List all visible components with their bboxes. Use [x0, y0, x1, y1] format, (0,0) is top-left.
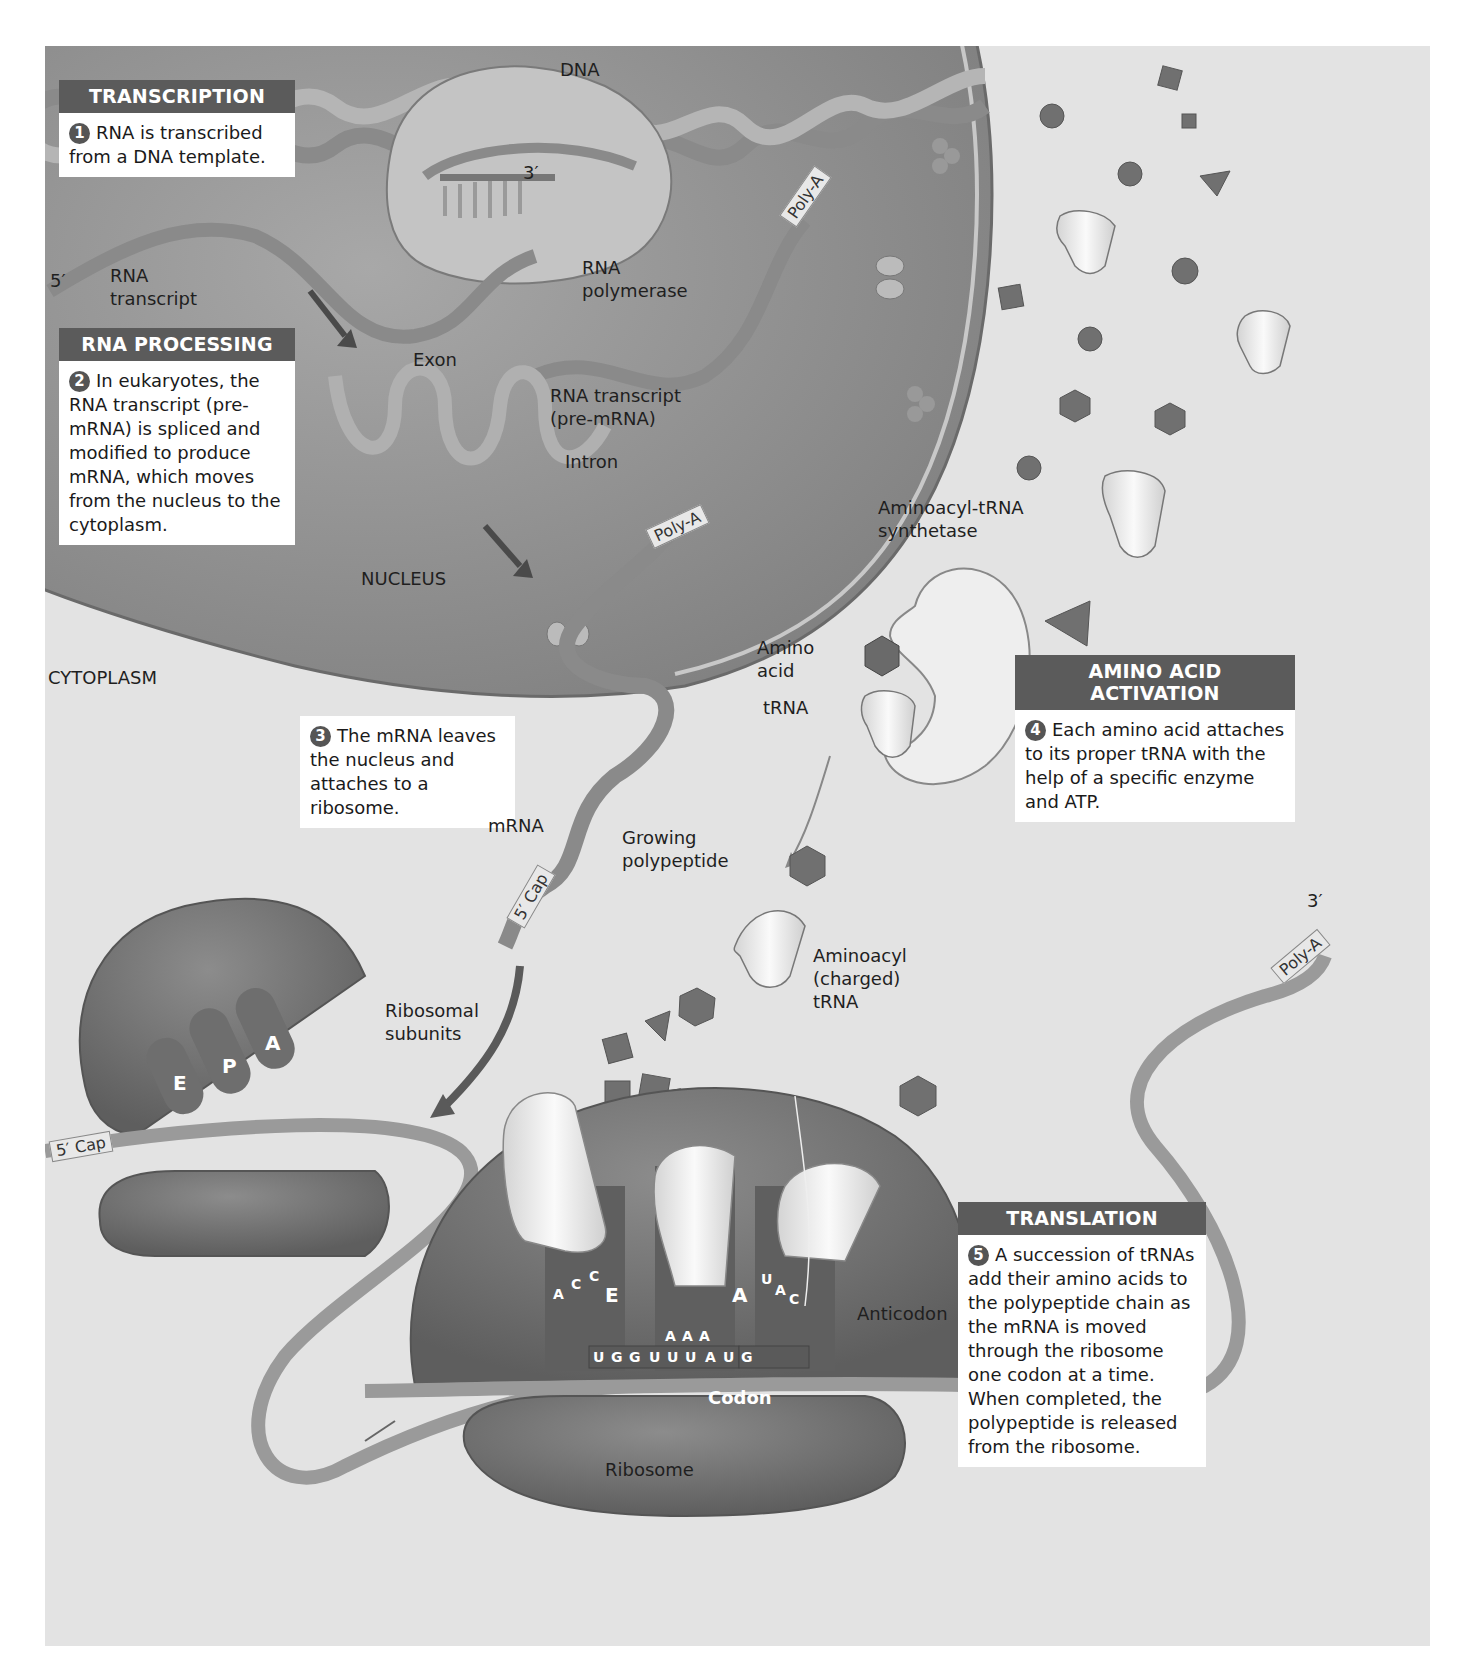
amino-acid-activation-text: Each amino acid attaches to its proper t… — [1025, 719, 1284, 812]
figure-canvas: TRANSCRIPTION 1RNA is transcribed from a… — [45, 46, 1430, 1646]
rna-transcript-label-1: RNA — [110, 264, 148, 287]
e-anticodon-3: C — [589, 1268, 599, 1284]
step-2-icon: 2 — [69, 371, 90, 392]
transcription-box: TRANSCRIPTION 1RNA is transcribed from a… — [59, 80, 295, 177]
step-1-icon: 1 — [69, 123, 90, 144]
ribosomal-subunits-label-2: subunits — [385, 1022, 461, 1045]
activation-arrow-icon — [790, 756, 830, 861]
codon-base-1: U — [593, 1349, 604, 1365]
amino-acid-activation-box: AMINO ACID ACTIVATION 4Each amino acid a… — [1015, 655, 1295, 822]
synthetase-label-1: Aminoacyl-tRNA — [878, 496, 1024, 519]
aminoacyl-trna-label-2: (charged) — [813, 967, 900, 990]
step-3-icon: 3 — [310, 726, 331, 747]
p-anticodon-1: A — [665, 1328, 676, 1344]
codon-base-3: G — [629, 1349, 641, 1365]
ribosomal-subunits-label-1: Ribosomal — [385, 999, 479, 1022]
e-anticodon-2: C — [571, 1276, 581, 1292]
rna-processing-text: In eukaryotes, the RNA transcript (pre-m… — [69, 370, 281, 535]
transcription-title: TRANSCRIPTION — [59, 80, 295, 113]
a-anticodon-1: U — [761, 1271, 772, 1287]
rna-polymerase-label-2: polymerase — [582, 279, 688, 302]
codon-base-5: U — [667, 1349, 678, 1365]
mrna-leaves-box: 3The mRNA leaves the nucleus and attache… — [300, 716, 515, 828]
anticodon-label: Anticodon — [857, 1302, 948, 1325]
translation-text: A succession of tRNAs add their amino ac… — [968, 1244, 1194, 1457]
synthetase-label-2: synthetase — [878, 519, 978, 542]
mrna-label: mRNA — [488, 814, 544, 837]
nucleus-label: NUCLEUS — [361, 567, 446, 590]
amino-acid-label-1: Amino — [757, 636, 814, 659]
ribosome-label: Ribosome — [605, 1458, 694, 1481]
cytoplasm-label: CYTOPLASM — [48, 666, 157, 689]
trna-label: tRNA — [763, 696, 808, 719]
charged-trna-icon — [734, 846, 825, 987]
pre-mrna-label-1: RNA transcript — [550, 384, 681, 407]
free-trna-icon — [1057, 211, 1290, 557]
three-prime-label: 3′ — [523, 161, 539, 184]
subunit-a-site: A — [265, 1031, 280, 1055]
e-anticodon-1: A — [553, 1286, 564, 1302]
p-anticodon-2: A — [682, 1328, 693, 1344]
step-4-icon: 4 — [1025, 720, 1046, 741]
step-5-icon: 5 — [968, 1245, 989, 1266]
three-prime-right-label: 3′ — [1307, 889, 1323, 912]
large-subunit — [80, 899, 365, 1136]
p-anticodon-3: A — [699, 1328, 710, 1344]
rna-polymerase-label-1: RNA — [582, 256, 620, 279]
mrna-leaves-text: The mRNA leaves the nucleus and attaches… — [310, 725, 496, 818]
rna-processing-box: RNA PROCESSING 2In eukaryotes, the RNA t… — [59, 328, 295, 545]
a-anticodon-3: C — [789, 1291, 799, 1307]
growing-polypeptide-label-2: polypeptide — [622, 849, 729, 872]
pre-mrna-label-2: (pre-mRNA) — [550, 407, 656, 430]
ribosome-a-site: A — [732, 1283, 747, 1307]
rna-transcript-label-2: transcript — [110, 287, 197, 310]
exon-label: Exon — [413, 348, 457, 371]
growing-polypeptide-label-1: Growing — [622, 826, 697, 849]
small-subunit — [99, 1171, 388, 1256]
ribosome-e-site: E — [605, 1283, 619, 1307]
codon-base-4: U — [649, 1349, 660, 1365]
aminoacyl-trna-label-3: tRNA — [813, 990, 858, 1013]
aminoacyl-trna-synthetase — [861, 569, 1029, 785]
subunit-e-site: E — [173, 1071, 187, 1095]
free-amino-acids — [998, 66, 1230, 646]
transcription-text: RNA is transcribed from a DNA template. — [69, 122, 266, 167]
codon-base-7: A — [705, 1349, 716, 1365]
codon-base-8: U — [723, 1349, 734, 1365]
translation-box: TRANSLATION 5A succession of tRNAs add t… — [958, 1202, 1206, 1467]
five-prime-label: 5′ — [50, 269, 66, 292]
codon-base-6: U — [685, 1349, 696, 1365]
a-anticodon-2: A — [775, 1282, 786, 1298]
amino-acid-label-2: acid — [757, 659, 794, 682]
codon-label: Codon — [708, 1386, 772, 1409]
subunit-p-site: P — [222, 1054, 237, 1078]
intron-label: Intron — [565, 450, 618, 473]
dna-label: DNA — [560, 58, 600, 81]
rna-processing-title: RNA PROCESSING — [59, 328, 295, 361]
codon-base-2: G — [611, 1349, 623, 1365]
amino-acid-activation-title: AMINO ACID ACTIVATION — [1015, 655, 1295, 710]
aminoacyl-trna-label-1: Aminoacyl — [813, 944, 907, 967]
translation-title: TRANSLATION — [958, 1202, 1206, 1235]
codon-base-9: G — [741, 1349, 753, 1365]
